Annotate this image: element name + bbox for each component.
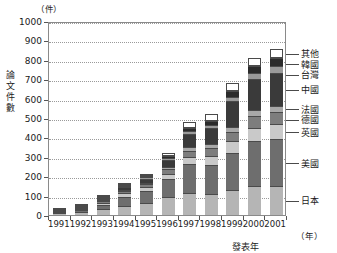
x-tick-mark [221, 216, 222, 220]
x-tick-mark [156, 216, 157, 220]
bar-segment-英國 [270, 124, 283, 140]
bar-segment-德國 [270, 112, 283, 124]
stacked-bar[interactable] [270, 49, 283, 215]
y-tick-mark [44, 197, 48, 198]
bar-segment-美國 [118, 197, 131, 207]
bar-segment-韓國 [270, 58, 283, 66]
y-tick-label: 700 [8, 76, 42, 85]
legend-item-韓國[interactable]: 韓國 [286, 60, 319, 70]
bar-segment-韓國 [248, 66, 261, 73]
bar-segment-英國 [205, 156, 218, 165]
stacked-bar[interactable] [162, 153, 175, 215]
bar-segment-法國 [270, 106, 283, 113]
legend-leader-line [286, 201, 299, 202]
legend-label: 日本 [301, 196, 319, 206]
legend-label: 法國 [301, 105, 319, 115]
legend-label: 德國 [301, 115, 319, 125]
stacked-bar[interactable] [140, 174, 153, 215]
legend-leader-line [286, 64, 299, 65]
stacked-bar[interactable] [97, 195, 110, 215]
bar-segment-日本 [226, 190, 239, 215]
legend-item-德國[interactable]: 德國 [286, 115, 319, 125]
bar-group [49, 23, 285, 215]
bar-segment-日本 [270, 186, 283, 215]
x-tick-mark [91, 216, 92, 220]
bar-segment-日本 [248, 186, 261, 215]
y-tick-label: 500 [8, 115, 42, 124]
bar-segment-台灣 [270, 66, 283, 73]
x-tick-mark [70, 216, 71, 220]
y-tick-mark [44, 177, 48, 178]
chart-figure: （件） 論文件數 0100200300400500600700800900100… [0, 0, 337, 253]
bar-segment-中國 [248, 79, 261, 110]
y-tick-label: 200 [8, 173, 42, 182]
bar-segment-日本 [162, 197, 175, 215]
y-tick-mark [44, 158, 48, 159]
bar-segment-美國 [226, 153, 239, 190]
x-tick-mark [199, 216, 200, 220]
x-tick-mark [113, 216, 114, 220]
x-tick-label: 2001 [260, 219, 290, 229]
bar-segment-其他 [248, 58, 261, 67]
bar-segment-德國 [226, 132, 239, 142]
bar-segment-德國 [205, 148, 218, 156]
legend-item-台灣[interactable]: 台灣 [286, 70, 319, 80]
stacked-bar[interactable] [183, 122, 196, 215]
bar-segment-中國 [226, 101, 239, 126]
legend-label: 英國 [301, 128, 319, 138]
y-tick-mark [44, 41, 48, 42]
bar-segment-中國 [270, 73, 283, 106]
y-tick-label: 900 [8, 37, 42, 46]
legend-item-其他[interactable]: 其他 [286, 49, 319, 59]
bar-segment-日本 [118, 206, 131, 215]
legend-item-中國[interactable]: 中國 [286, 85, 319, 95]
bar-segment-美國 [248, 141, 261, 186]
y-tick-label: 800 [8, 56, 42, 65]
bar-segment-德國 [183, 151, 196, 158]
bar-segment-其他 [205, 114, 218, 121]
x-tick-mark [243, 216, 244, 220]
legend-item-英國[interactable]: 英國 [286, 128, 319, 138]
legend-label: 韓國 [301, 60, 319, 70]
legend-leader-line [286, 75, 299, 76]
plot-area [48, 22, 286, 216]
bar-segment-中國 [183, 134, 196, 148]
bar-segment-中國 [205, 128, 218, 144]
bar-segment-英國 [226, 141, 239, 153]
stacked-bar[interactable] [226, 83, 239, 215]
legend-item-日本[interactable]: 日本 [286, 196, 319, 206]
x-tick-mark [286, 216, 287, 220]
y-tick-mark [44, 80, 48, 81]
bar-segment-日本 [183, 193, 196, 215]
bar-segment-英國 [183, 157, 196, 164]
x-tick-mark [264, 216, 265, 220]
bar-segment-其他 [226, 83, 239, 91]
bar-segment-日本 [97, 209, 110, 215]
bar-segment-日本 [205, 194, 218, 215]
bar-segment-美國 [270, 139, 283, 186]
legend-item-美國[interactable]: 美國 [286, 159, 319, 169]
y-axis-unit: （件） [36, 2, 62, 14]
bar-segment-其他 [270, 49, 283, 58]
y-tick-label: 0 [8, 212, 42, 221]
legend-item-法國[interactable]: 法國 [286, 105, 319, 115]
stacked-bar[interactable] [75, 204, 88, 215]
bar-segment-美國 [205, 165, 218, 194]
x-axis-unit: （年） [296, 229, 323, 241]
legend: 其他韓國台灣中國法國德國英國美國日本 [286, 22, 337, 216]
stacked-bar[interactable] [205, 114, 218, 215]
stacked-bar[interactable] [118, 183, 131, 215]
stacked-bar[interactable] [248, 58, 261, 215]
bar-segment-美國 [140, 191, 153, 203]
legend-leader-line [286, 109, 299, 110]
y-tick-label: 400 [8, 134, 42, 143]
y-tick-mark [44, 22, 48, 23]
x-axis-title: 發表年 [232, 240, 259, 253]
bar-segment-美國 [162, 179, 175, 198]
stacked-bar[interactable] [53, 208, 66, 215]
legend-label: 美國 [301, 159, 319, 169]
bar-segment-日本 [53, 213, 66, 215]
legend-leader-line [286, 90, 299, 91]
y-tick-label: 600 [8, 95, 42, 104]
legend-label: 中國 [301, 85, 319, 95]
